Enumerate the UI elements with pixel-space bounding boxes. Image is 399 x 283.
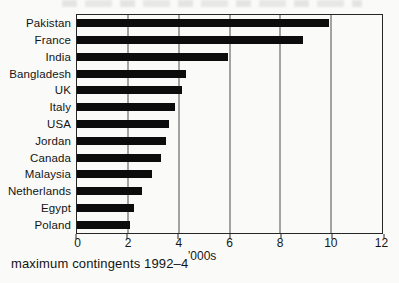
category-label-uk: UK bbox=[55, 84, 71, 96]
x-tick-label-4: 4 bbox=[175, 236, 182, 250]
bar-row-egypt: Egypt bbox=[77, 199, 382, 216]
x-tick-label-6: 6 bbox=[226, 236, 233, 250]
x-tick-label-0: 0 bbox=[74, 236, 81, 250]
x-tick-label-12: 12 bbox=[375, 236, 388, 250]
x-tick-label-8: 8 bbox=[277, 236, 284, 250]
bar-usa bbox=[77, 120, 169, 128]
bar-poland bbox=[77, 221, 130, 229]
category-label-egypt: Egypt bbox=[41, 202, 71, 214]
category-label-pakistan: Pakistan bbox=[26, 17, 71, 29]
category-label-france: France bbox=[35, 34, 71, 46]
bar-row-usa: USA bbox=[77, 116, 382, 133]
x-tick-label-10: 10 bbox=[324, 236, 337, 250]
bar-italy bbox=[77, 103, 175, 111]
bar-row-france: France bbox=[77, 32, 382, 49]
bar-row-netherlands: Netherlands bbox=[77, 183, 382, 200]
bar-row-bangladesh: Bangladesh bbox=[77, 65, 382, 82]
bar-pakistan bbox=[77, 19, 329, 27]
x-axis-label: ’000s bbox=[188, 249, 217, 263]
bar-row-italy: Italy bbox=[77, 99, 382, 116]
chart-caption: maximum contingents 1992–4 bbox=[11, 256, 188, 271]
bar-france bbox=[77, 36, 303, 44]
bar-row-poland: Poland bbox=[77, 216, 382, 233]
x-tick-label-2: 2 bbox=[125, 236, 132, 250]
bar-india bbox=[77, 53, 228, 61]
category-label-netherlands: Netherlands bbox=[8, 185, 71, 197]
bar-netherlands bbox=[77, 187, 142, 195]
bar-row-uk: UK bbox=[77, 82, 382, 99]
bar-rows: PakistanFranceIndiaBangladeshUKItalyUSAJ… bbox=[77, 15, 382, 233]
category-label-poland: Poland bbox=[35, 219, 71, 231]
x-axis-tick-labels: 024681012 bbox=[78, 236, 382, 250]
bar-row-pakistan: Pakistan bbox=[77, 15, 382, 32]
bar-malaysia bbox=[77, 170, 152, 178]
category-label-canada: Canada bbox=[30, 152, 71, 164]
bar-chart-plot-area: PakistanFranceIndiaBangladeshUKItalyUSAJ… bbox=[76, 14, 383, 234]
category-label-bangladesh: Bangladesh bbox=[9, 68, 71, 80]
bar-uk bbox=[77, 86, 182, 94]
cropped-text-remnant bbox=[62, 0, 362, 7]
scanned-page: PakistanFranceIndiaBangladeshUKItalyUSAJ… bbox=[0, 0, 399, 283]
bar-row-india: India bbox=[77, 49, 382, 66]
category-label-malaysia: Malaysia bbox=[25, 168, 71, 180]
bar-jordan bbox=[77, 137, 166, 145]
category-label-usa: USA bbox=[47, 118, 71, 130]
bar-row-jordan: Jordan bbox=[77, 132, 382, 149]
bar-bangladesh bbox=[77, 70, 186, 78]
category-label-india: India bbox=[46, 51, 71, 63]
bar-row-canada: Canada bbox=[77, 149, 382, 166]
category-label-italy: Italy bbox=[49, 101, 71, 113]
bar-egypt bbox=[77, 204, 134, 212]
bar-canada bbox=[77, 154, 161, 162]
category-label-jordan: Jordan bbox=[35, 135, 71, 147]
bar-row-malaysia: Malaysia bbox=[77, 166, 382, 183]
